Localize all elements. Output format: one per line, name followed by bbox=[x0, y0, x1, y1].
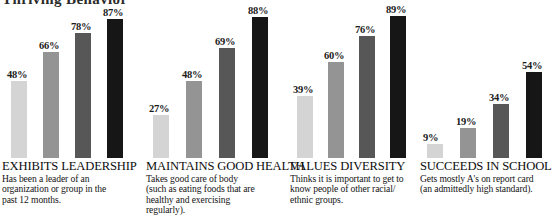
plot-area: 39%60%76%89% bbox=[290, 0, 420, 158]
bar-slot: 78% bbox=[72, 0, 104, 158]
bar-slot: 9% bbox=[424, 0, 456, 158]
bar-value-label: 88% bbox=[248, 5, 268, 16]
group-description: Thinks it is important to get toknow peo… bbox=[290, 174, 420, 205]
bar-value-label: 34% bbox=[489, 92, 509, 103]
group-title: SUCCEEDS IN SCHOOL bbox=[420, 160, 559, 173]
bar[interactable] bbox=[219, 48, 235, 158]
group-description-line: ethnic groups. bbox=[290, 195, 420, 205]
group-title: VALUES DIVERSITY bbox=[290, 160, 420, 173]
bar[interactable] bbox=[493, 104, 509, 158]
bar[interactable] bbox=[297, 96, 313, 158]
bar-slot: 48% bbox=[183, 0, 215, 158]
group-title: MAINTAINS GOOD HEALTH bbox=[146, 160, 289, 173]
bar-group: 39%60%76%89%VALUES DIVERSITYThinks it is… bbox=[290, 0, 420, 218]
bar-slot: 88% bbox=[249, 0, 281, 158]
group-description: Takes good care of body(such as eating f… bbox=[146, 174, 289, 215]
bar-value-label: 27% bbox=[149, 103, 169, 114]
bar[interactable] bbox=[427, 144, 443, 158]
bar-value-label: 66% bbox=[39, 40, 59, 51]
bar-slot: 87% bbox=[104, 0, 136, 158]
bar-value-label: 9% bbox=[423, 132, 438, 143]
bar-slot: 34% bbox=[490, 0, 522, 158]
bar-slot: 60% bbox=[325, 0, 357, 158]
bar-group: 48%66%78%87%EXHIBITS LEADERSHIPHas been … bbox=[2, 0, 144, 218]
group-description-line: (an admittedly high standard). bbox=[420, 184, 559, 194]
group-title: EXHIBITS LEADERSHIP bbox=[2, 160, 144, 173]
bar-value-label: 69% bbox=[215, 36, 235, 47]
bar[interactable] bbox=[526, 72, 542, 158]
group-caption: MAINTAINS GOOD HEALTHTakes good care of … bbox=[146, 160, 289, 215]
bar-slot: 89% bbox=[387, 0, 419, 158]
thriving-behavior-bar-chart: Thriving Behavior 48%66%78%87%EXHIBITS L… bbox=[0, 0, 559, 218]
bar-slot: 27% bbox=[150, 0, 182, 158]
bar-slot: 39% bbox=[294, 0, 326, 158]
plot-area: 48%66%78%87% bbox=[2, 0, 144, 158]
bar-slot: 48% bbox=[8, 0, 40, 158]
bar[interactable] bbox=[390, 16, 406, 158]
bar-value-label: 54% bbox=[522, 60, 542, 71]
bar[interactable] bbox=[359, 36, 375, 158]
bar-value-label: 39% bbox=[293, 84, 313, 95]
group-caption: VALUES DIVERSITYThinks it is important t… bbox=[290, 160, 420, 205]
plot-area: 9%19%34%54% bbox=[420, 0, 559, 158]
bar-value-label: 48% bbox=[7, 69, 27, 80]
bar[interactable] bbox=[11, 81, 27, 158]
bar[interactable] bbox=[43, 52, 59, 158]
bar[interactable] bbox=[107, 19, 123, 158]
bar-slot: 19% bbox=[457, 0, 489, 158]
group-description-line: past 12 months. bbox=[2, 195, 144, 205]
bar-group: 9%19%34%54%SUCCEEDS IN SCHOOLGets mostly… bbox=[420, 0, 559, 218]
bar[interactable] bbox=[328, 62, 344, 158]
group-description: Gets mostly A's on report card(an admitt… bbox=[420, 174, 559, 195]
bar-slot: 54% bbox=[523, 0, 555, 158]
bar[interactable] bbox=[186, 81, 202, 158]
bar-value-label: 78% bbox=[71, 21, 91, 32]
bar-value-label: 89% bbox=[386, 4, 406, 15]
bar-group: 27%48%69%88%MAINTAINS GOOD HEALTHTakes g… bbox=[146, 0, 289, 218]
bar-slot: 76% bbox=[356, 0, 388, 158]
group-description: Has been a leader of anorganization or g… bbox=[2, 174, 144, 205]
bar-value-label: 76% bbox=[355, 24, 375, 35]
group-description-line: regularly). bbox=[146, 205, 289, 215]
plot-area: 27%48%69%88% bbox=[146, 0, 289, 158]
bar-slot: 69% bbox=[216, 0, 248, 158]
bar-value-label: 87% bbox=[103, 7, 123, 18]
bar-slot: 66% bbox=[40, 0, 72, 158]
bar[interactable] bbox=[460, 128, 476, 158]
group-caption: SUCCEEDS IN SCHOOLGets mostly A's on rep… bbox=[420, 160, 559, 195]
bar[interactable] bbox=[252, 17, 268, 158]
bar-value-label: 60% bbox=[324, 50, 344, 61]
bar[interactable] bbox=[153, 115, 169, 158]
bar-value-label: 19% bbox=[456, 116, 476, 127]
bar-value-label: 48% bbox=[182, 69, 202, 80]
group-caption: EXHIBITS LEADERSHIPHas been a leader of … bbox=[2, 160, 144, 205]
bar[interactable] bbox=[75, 33, 91, 158]
